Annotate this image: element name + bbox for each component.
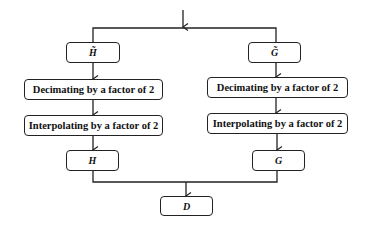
- h-box: H: [66, 150, 119, 171]
- decimate-left-label: Decimating by a factor of 2: [33, 84, 154, 95]
- decimate-right-label: Decimating by a factor of 2: [217, 82, 338, 93]
- h-tilde-box: H̃: [66, 42, 120, 63]
- merge-line: [93, 171, 277, 182]
- g-tilde-label: G̃: [271, 47, 278, 58]
- h-label: H: [89, 155, 97, 166]
- d-box: D: [160, 196, 213, 216]
- d-label: D: [183, 201, 190, 212]
- interpolate-left-box: Interpolating by a factor of 2: [24, 115, 163, 136]
- decimate-right-box: Decimating by a factor of 2: [207, 77, 348, 98]
- flowchart: H̃ G̃ Decimating by a factor of 2 Decima…: [0, 0, 365, 228]
- g-tilde-box: G̃: [248, 42, 301, 63]
- interpolate-right-box: Interpolating by a factor of 2: [207, 113, 348, 134]
- interpolate-right-label: Interpolating by a factor of 2: [213, 118, 343, 129]
- g-box: G: [252, 150, 305, 171]
- split-line: [93, 28, 276, 42]
- h-tilde-label: H̃: [89, 47, 97, 58]
- decimate-left-box: Decimating by a factor of 2: [24, 79, 163, 100]
- g-label: G: [275, 155, 282, 166]
- interpolate-left-label: Interpolating by a factor of 2: [29, 120, 159, 131]
